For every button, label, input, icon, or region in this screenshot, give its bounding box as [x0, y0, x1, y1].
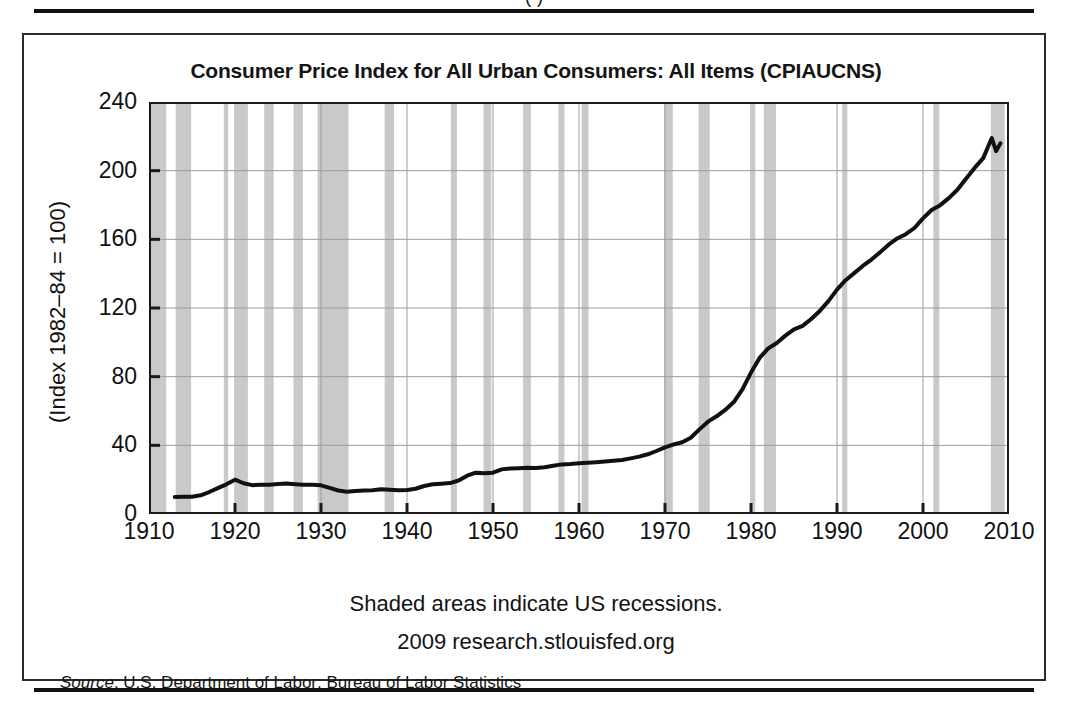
x-tick-label: 1980 [701, 520, 801, 543]
recession-caption: Shaded areas indicate US recessions. [24, 591, 1048, 617]
x-tick-label: 1910 [99, 520, 199, 543]
y-tick-label: 40 [47, 433, 137, 456]
plot-wrapper: 04080120160200240 1910192019301940195019… [149, 102, 1009, 548]
source-note-text: : U.S. Department of Labor: Bureau of La… [114, 673, 521, 692]
plot-area [149, 102, 1009, 514]
y-tick-label: 200 [47, 159, 137, 182]
page-title: Consumer Price Index for All Urban Consu… [24, 59, 1048, 83]
y-tick-label: 80 [47, 365, 137, 388]
figure-frame: Consumer Price Index for All Urban Consu… [22, 33, 1046, 681]
x-tick-label: 1940 [357, 520, 457, 543]
x-tick-label: 1960 [529, 520, 629, 543]
y-tick-label: 240 [47, 90, 137, 113]
chart-svg [149, 102, 1009, 514]
source-note: Source: U.S. Department of Labor: Bureau… [60, 673, 521, 693]
y-tick-label: 160 [47, 227, 137, 250]
x-tick-label: 2010 [959, 520, 1059, 543]
x-tick-label: 1990 [787, 520, 887, 543]
x-tick-label: 1920 [185, 520, 285, 543]
clipped-header-caption: ( ) [0, 0, 1068, 8]
top-horizontal-rule [34, 9, 1034, 13]
x-tick-label: 1970 [615, 520, 715, 543]
y-tick-label: 120 [47, 296, 137, 319]
x-tick-label: 1930 [271, 520, 371, 543]
fred-source-caption: 2009 research.stlouisfed.org [24, 629, 1048, 655]
x-tick-label: 2000 [873, 520, 973, 543]
source-note-label: Source [60, 673, 114, 692]
x-tick-label: 1950 [443, 520, 543, 543]
